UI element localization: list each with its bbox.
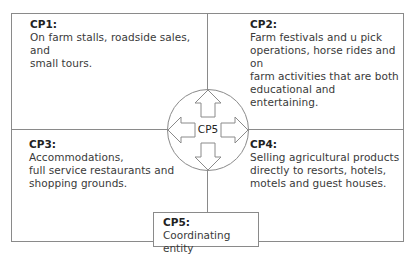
quadrant-text-line: full service restaurants and: [29, 164, 189, 177]
quadrant-text-line: motels and guest houses.: [250, 177, 400, 190]
quadrant-cp2: CP2: Farm festivals and u pick operation…: [250, 18, 400, 109]
quadrant-text-line: shopping grounds.: [29, 177, 189, 190]
quadrant-text-line: directly to resorts, hotels,: [250, 164, 400, 177]
hub-cp5: CP5: [166, 88, 250, 172]
quadrant-text-line: operations, horse rides and on: [250, 44, 400, 70]
quadrant-text-line: farm activities that are both: [250, 70, 400, 83]
quadrant-text-line: educational and entertaining.: [250, 83, 400, 109]
quadrant-text-line: On farm stalls, roadside sales, and: [30, 31, 205, 57]
quadrant-label: CP4:: [250, 138, 400, 151]
quadrant-text-line: Farm festivals and u pick: [250, 31, 400, 44]
quadrant-cp1: CP1: On farm stalls, roadside sales, and…: [30, 18, 205, 70]
quadrant-text-line: small tours.: [30, 57, 205, 70]
quadrant-cp4: CP4: Selling agricultural products direc…: [250, 138, 400, 190]
quadrant-label: CP2:: [250, 18, 400, 31]
quadrant-text-line: Accommodations,: [29, 151, 189, 164]
coordinator-text: Coordinating: [163, 229, 230, 241]
hub-label: CP5: [166, 123, 250, 136]
quadrant-label: CP1:: [30, 18, 205, 31]
coordinator-label: CP5:: [163, 216, 190, 228]
quadrant-text-line: Selling agricultural products: [250, 151, 400, 164]
coordinator-text-line2: entity: [163, 242, 193, 254]
quadrant-label: CP3:: [29, 138, 189, 151]
coordinating-entity-box: CP5: Coordinating entity: [153, 212, 259, 247]
quadrant-cp3: CP3: Accommodations, full service restau…: [29, 138, 189, 190]
